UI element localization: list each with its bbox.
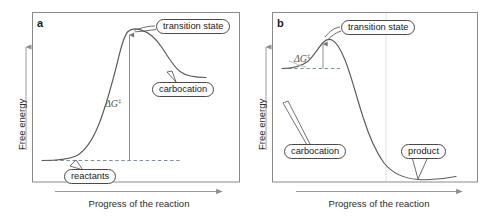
panel-b-annotation-product: product [401,144,446,159]
panel-a-annotation-reactants: reactants [64,169,116,184]
panel-a-x-axis-label: Progress of the reaction [55,198,223,209]
figure-canvas [0,0,490,218]
panel-b [266,13,478,192]
panel-a-letter: a [37,17,43,29]
panel-b-annotation-carbocation: carbocation [284,144,346,159]
panel-a-y-axis-label: Free energy [16,99,27,150]
panel-a-annotation-transition-state: transition state [156,19,230,34]
panel-a-activation-energy-superscript: ‡ [118,97,122,105]
panel-a-activation-energy-text: ΔG [105,98,118,109]
panel-b-activation-energy-label: ΔG‡ [294,52,311,64]
panel-a-annotation-carbocation: carbocation [152,82,214,97]
panel-b-activation-energy-superscript: ‡ [307,52,311,60]
panel-b-x-axis-label: Progress of the reaction [296,198,462,209]
panel-a [26,13,240,192]
panel-a-frame [33,13,240,183]
panel-b-activation-energy-text: ΔG [294,53,307,64]
panel-b-letter: b [277,17,284,29]
panel-b-y-axis-label: Free energy [256,99,267,150]
panel-a-activation-energy-label: ΔG‡ [105,97,122,109]
figure-energy-diagrams: a Free energy Progress of the reaction Δ… [0,0,490,218]
panel-b-annotation-transition-state: transition state [341,20,415,35]
